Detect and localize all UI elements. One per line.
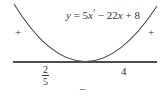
root-right-label: 4 <box>121 66 127 77</box>
sign-positive-right: + <box>148 27 154 38</box>
root-left-denominator: 5 <box>41 76 50 87</box>
sign-negative-middle: – <box>80 84 85 94</box>
root-left-numerator: 2 <box>41 64 50 75</box>
equation-label: y = 5x² − 22x + 8 <box>66 9 140 21</box>
root-left-fraction: 2 5 <box>41 64 50 87</box>
parabola-sign-diagram: y = 5x² − 22x + 8 + + – 2 5 4 <box>0 0 164 96</box>
sign-positive-left: + <box>15 27 21 38</box>
